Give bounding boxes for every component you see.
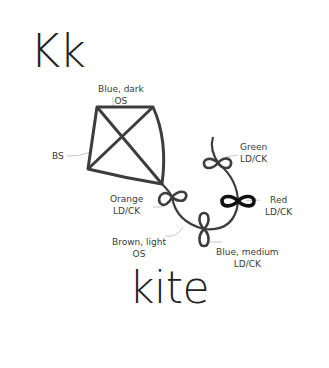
label-green-line1: Green <box>240 141 267 153</box>
label-orange-line2: LD/CK <box>110 205 143 217</box>
label-red-line2: LD/CK <box>265 206 292 218</box>
label-green: Green LD/CK <box>240 141 267 165</box>
label-blue-dark-line2: OS <box>98 95 144 107</box>
label-brown-light-line2: OS <box>112 248 166 260</box>
label-blue-dark-line1: Blue, dark <box>98 83 144 95</box>
letter-heading: Kk <box>30 28 85 74</box>
label-blue-medium-line2: LD/CK <box>216 258 279 270</box>
label-bs-line1: BS <box>52 150 64 162</box>
label-brown-light: Brown, light OS <box>112 236 166 260</box>
label-orange-line1: Orange <box>110 193 143 205</box>
label-brown-light-line1: Brown, light <box>112 236 166 248</box>
label-bs: BS <box>52 150 64 162</box>
label-green-line2: LD/CK <box>240 153 267 165</box>
label-blue-medium-line1: Blue, medium <box>216 246 279 258</box>
label-blue-dark: Blue, dark OS <box>98 83 144 107</box>
kite-frame-icon <box>88 107 164 184</box>
label-red-line1: Red <box>265 194 292 206</box>
label-red: Red LD/CK <box>265 194 292 218</box>
label-orange: Orange LD/CK <box>110 193 143 217</box>
label-blue-medium: Blue, medium LD/CK <box>216 246 279 270</box>
word-caption: kite <box>129 266 209 310</box>
